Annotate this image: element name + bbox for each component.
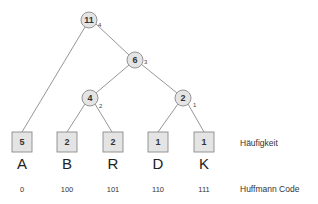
symbol-R: R xyxy=(103,155,123,172)
code-B: 100 xyxy=(55,185,79,194)
edge-2-D xyxy=(158,104,178,132)
leaf-frequency: 2 xyxy=(110,137,115,147)
leaf-frequency: 2 xyxy=(64,137,69,147)
code-A: 0 xyxy=(10,185,34,194)
code-R: 101 xyxy=(101,185,125,194)
node-rank: 3 xyxy=(144,59,148,65)
leaf-frequency: 1 xyxy=(155,137,160,147)
edge-4-B xyxy=(67,104,85,132)
node-weight: 2 xyxy=(180,93,185,103)
code-K: 111 xyxy=(192,185,216,194)
node-rank: 1 xyxy=(193,102,197,108)
frequency-row-label: Häufigkeit xyxy=(240,138,278,148)
edge-11-A xyxy=(22,27,85,132)
edge-6-2 xyxy=(141,64,177,93)
leaf-R: 2 xyxy=(103,132,123,152)
code-D: 110 xyxy=(146,185,170,194)
node-2: 2 1 xyxy=(175,90,197,108)
node-rank: 2 xyxy=(99,103,103,109)
code-row-label: Huffmann Code xyxy=(240,184,299,194)
leaf-D: 1 xyxy=(148,132,168,152)
symbol-D: D xyxy=(148,155,168,172)
tree-edges xyxy=(22,24,204,132)
node-weight: 4 xyxy=(87,93,92,103)
edge-2-K xyxy=(188,104,204,132)
edge-11-6 xyxy=(96,24,129,55)
node-weight: 11 xyxy=(84,15,94,25)
node-4: 4 2 xyxy=(82,90,103,109)
leaf-B: 2 xyxy=(57,132,77,152)
node-rank: 4 xyxy=(98,22,102,28)
leaf-frequency: 5 xyxy=(19,137,24,147)
leaf-A: 5 xyxy=(12,132,32,152)
node-6: 6 3 xyxy=(127,52,148,68)
symbol-K: K xyxy=(194,155,214,172)
edge-6-4 xyxy=(96,65,129,93)
edge-4-R xyxy=(95,104,112,132)
leaf-K: 1 xyxy=(194,132,214,152)
leaf-frequency: 1 xyxy=(201,137,206,147)
symbol-B: B xyxy=(57,155,77,172)
node-11: 11 4 xyxy=(81,12,102,28)
huffman-tree-graphic: 11 4 6 3 4 2 2 1 5 2 2 1 1 xyxy=(0,0,318,204)
symbol-A: A xyxy=(12,155,32,172)
node-weight: 6 xyxy=(132,55,137,65)
